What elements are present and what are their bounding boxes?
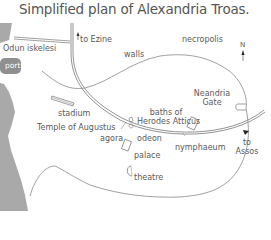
label-to-assos: to Assos <box>233 138 261 156</box>
label-nymphaeum: nymphaeum <box>175 143 225 152</box>
label-port: port <box>5 61 20 70</box>
label-palace: palace <box>134 151 160 160</box>
label-odun-iskelesi: Odun iskelesi <box>3 44 56 53</box>
label-temple-of-augustus: Temple of Augustus <box>37 123 116 132</box>
label-neandria-gate: Neandria Gate <box>192 89 232 107</box>
label-stadium: stadium <box>58 109 90 118</box>
neandria-gate-shape <box>236 104 246 110</box>
sea-top <box>0 23 12 43</box>
label-walls: walls <box>124 50 144 59</box>
label-baths-of-herodes-atticus: baths of Herodes Atticus <box>137 108 195 126</box>
label-baths-line1: baths of <box>137 108 195 117</box>
label-odeon: odeon <box>137 134 162 143</box>
label-theatre: theatre <box>134 173 163 182</box>
compass-north-icon <box>242 50 245 55</box>
label-to-ezine: to Ezine <box>80 35 112 44</box>
label-to-assos-line1: to <box>233 138 261 147</box>
label-necropolis: necropolis <box>182 35 223 44</box>
label-baths-line2: Herodes Atticus <box>137 117 195 126</box>
label-to-assos-line2: Assos <box>233 147 261 156</box>
sea-coast <box>0 83 28 211</box>
compass-n-label: N <box>240 41 245 50</box>
label-agora: agora <box>100 134 123 143</box>
label-neandria-line2: Gate <box>192 98 232 107</box>
label-neandria-line1: Neandria <box>192 89 232 98</box>
